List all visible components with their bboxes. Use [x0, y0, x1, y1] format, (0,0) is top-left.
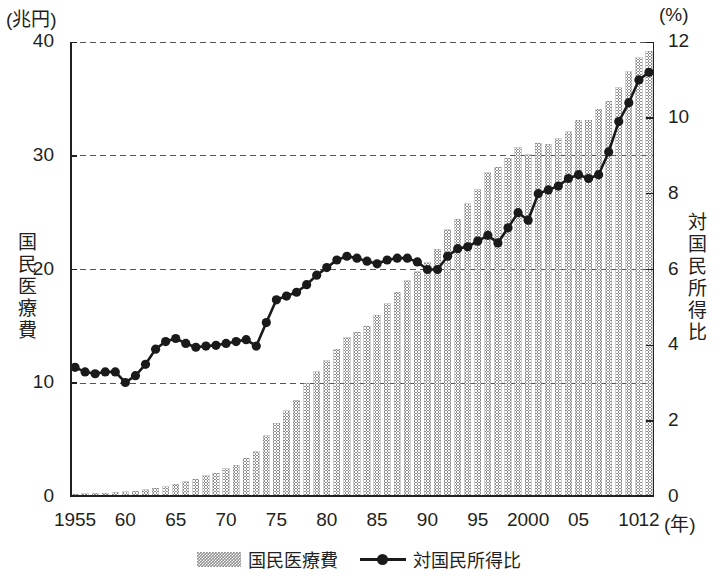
- line-marker: [332, 255, 341, 264]
- bar: [384, 304, 390, 497]
- line-marker: [161, 337, 170, 346]
- line-marker: [584, 174, 593, 183]
- line-marker: [493, 238, 502, 247]
- bar: [515, 148, 521, 497]
- line-marker: [111, 367, 120, 376]
- left-tick-label: 20: [8, 258, 54, 280]
- line-marker: [604, 147, 613, 156]
- line-marker: [352, 254, 361, 263]
- line-marker: [614, 117, 623, 126]
- bar: [434, 249, 440, 497]
- bar: [545, 144, 551, 497]
- bar: [314, 372, 320, 497]
- line-marker: [282, 291, 291, 300]
- left-axis-title: 国民医療費: [16, 233, 38, 343]
- bar: [334, 349, 340, 497]
- line-marker: [433, 265, 442, 274]
- legend-label-line: 対国民所得比: [413, 546, 521, 572]
- bar: [525, 155, 531, 497]
- line-marker: [413, 257, 422, 266]
- bar: [444, 230, 450, 497]
- bar: [203, 476, 209, 497]
- bar: [495, 167, 501, 497]
- bar: [424, 263, 430, 497]
- bar: [616, 88, 622, 498]
- line-marker: [362, 257, 371, 266]
- bar: [374, 315, 380, 497]
- right-tick-label: 12: [668, 30, 689, 52]
- right-tick-label: 6: [668, 258, 679, 280]
- bar: [606, 101, 612, 497]
- line-marker: [513, 208, 522, 217]
- bar: [364, 326, 370, 497]
- line-marker: [81, 367, 90, 376]
- line-marker: [232, 337, 241, 346]
- bar: [404, 281, 410, 497]
- line-marker: [201, 341, 210, 350]
- legend-item-bars: 国民医療費: [197, 546, 338, 572]
- bar: [324, 361, 330, 498]
- line-marker: [211, 341, 220, 350]
- line-marker: [342, 252, 351, 261]
- chart-canvas: [70, 42, 654, 497]
- line-marker: [564, 174, 573, 183]
- bar: [233, 465, 239, 497]
- line-marker: [524, 216, 533, 225]
- left-tick-label: 40: [8, 30, 54, 52]
- legend-item-line: 対国民所得比: [360, 546, 521, 572]
- right-tick-label: 2: [668, 409, 679, 431]
- line-marker: [191, 343, 200, 352]
- bar: [243, 458, 249, 497]
- line-marker: [483, 231, 492, 240]
- left-tick-label: 30: [8, 144, 54, 166]
- bar: [555, 139, 561, 497]
- bar: [626, 72, 632, 497]
- line-marker: [121, 378, 130, 387]
- bar: [344, 338, 350, 497]
- line-marker: [393, 254, 402, 263]
- bar: [253, 452, 259, 498]
- bar: [304, 383, 310, 497]
- line-marker: [292, 288, 301, 297]
- line-marker: [151, 345, 160, 354]
- bar: [213, 473, 219, 497]
- line-marker: [322, 263, 331, 272]
- line-marker: [534, 189, 543, 198]
- line-marker: [503, 223, 512, 232]
- right-tick-label: 8: [668, 182, 679, 204]
- line-path: [75, 72, 649, 382]
- chart-root: (兆円) (%) 国民医療費 対国民所得比 010: [0, 0, 717, 576]
- line-marker: [262, 318, 271, 327]
- line-marker: [171, 334, 180, 343]
- left-tick-label: 10: [8, 371, 54, 393]
- line-marker: [383, 255, 392, 264]
- line-marker: [91, 369, 100, 378]
- bar: [505, 158, 511, 497]
- right-tick-label: 0: [668, 485, 679, 507]
- line-marker: [463, 242, 472, 251]
- bar: [485, 173, 491, 497]
- line-marker: [594, 170, 603, 179]
- bar: [183, 482, 189, 497]
- legend-bar-swatch-icon: [197, 552, 241, 567]
- line-marker: [70, 363, 79, 372]
- bar: [394, 292, 400, 497]
- bar: [223, 469, 229, 497]
- line-marker: [644, 68, 653, 77]
- line-marker: [403, 254, 412, 263]
- bar: [565, 132, 571, 497]
- bar: [283, 411, 289, 497]
- line-marker: [312, 271, 321, 280]
- line-marker: [141, 360, 150, 369]
- line-marker: [453, 244, 462, 253]
- line-marker: [252, 341, 261, 350]
- x-axis-unit-label: (年): [664, 509, 717, 536]
- line-marker: [473, 236, 482, 245]
- bar: [193, 479, 199, 497]
- line-marker: [131, 371, 140, 380]
- right-tick-label: 4: [668, 333, 679, 355]
- line-marker: [443, 252, 452, 261]
- line-marker: [101, 367, 110, 376]
- line-marker: [544, 185, 553, 194]
- left-tick-label: 0: [8, 485, 54, 507]
